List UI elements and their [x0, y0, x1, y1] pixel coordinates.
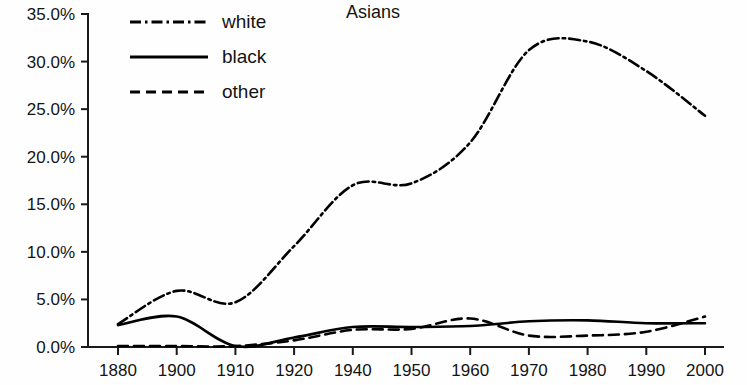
x-tick-label: 1950 [393, 361, 431, 380]
y-tick-label: 25.0% [27, 100, 75, 119]
y-axis: 0.0%5.0%10.0%15.0%20.0%25.0%30.0%35.0% [27, 5, 88, 357]
series-line-white [118, 38, 705, 324]
series-line-black [118, 316, 705, 347]
chart-container: Asians 0.0%5.0%10.0%15.0%20.0%25.0%30.0%… [0, 0, 747, 385]
legend-label-black: black [222, 46, 267, 67]
legend-label-other: other [222, 81, 266, 102]
x-tick-label: 1990 [627, 361, 665, 380]
line-chart: Asians 0.0%5.0%10.0%15.0%20.0%25.0%30.0%… [0, 0, 747, 385]
x-tick-label: 1880 [99, 361, 137, 380]
x-tick-label: 1970 [510, 361, 548, 380]
x-tick-label: 1960 [451, 361, 489, 380]
x-tick-label: 1980 [569, 361, 607, 380]
legend-label-white: white [221, 11, 266, 32]
y-tick-label: 20.0% [27, 148, 75, 167]
y-tick-label: 5.0% [36, 290, 75, 309]
y-tick-label: 35.0% [27, 5, 75, 24]
chart-title: Asians [346, 2, 400, 22]
x-tick-label: 1920 [275, 361, 313, 380]
x-tick-label: 2000 [686, 361, 724, 380]
x-tick-label: 1910 [216, 361, 254, 380]
x-tick-label: 1900 [158, 361, 196, 380]
x-tick-label: 1940 [334, 361, 372, 380]
y-tick-label: 0.0% [36, 338, 75, 357]
y-tick-label: 30.0% [27, 53, 75, 72]
y-tick-label: 15.0% [27, 195, 75, 214]
x-axis: 1880190019101920194019501960197019801990… [88, 347, 724, 380]
chart-legend: whiteblackother [130, 11, 267, 102]
chart-title-group: Asians [346, 2, 400, 22]
y-tick-label: 10.0% [27, 243, 75, 262]
series-lines [118, 38, 705, 347]
